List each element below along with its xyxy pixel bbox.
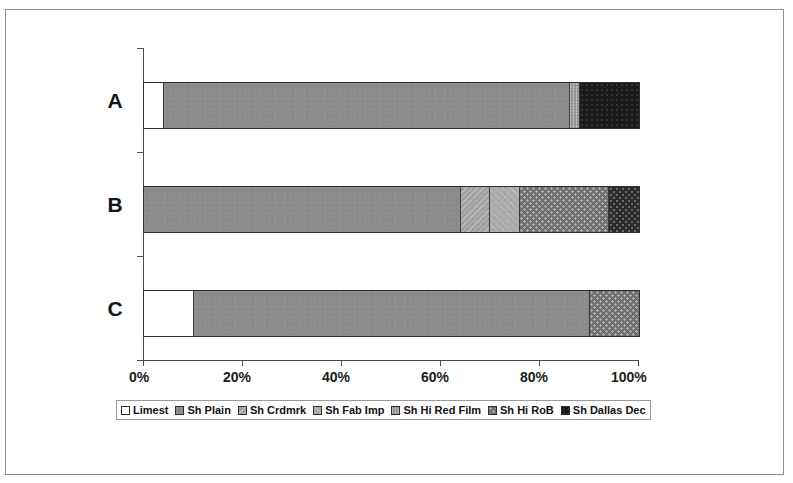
legend-entry[interactable]: Sh Hi Red Film [391,405,481,416]
chart-legend: LimestSh PlainSh CrdmrkSh Fab ImpSh Hi R… [116,400,651,420]
x-axis-tick [143,360,144,366]
bar-segment-fabimp [490,187,520,232]
legend-entry[interactable]: Sh Plain [175,405,230,416]
category-tick [137,256,143,257]
x-axis-tick [440,360,441,366]
bar-segment-redfilm [570,83,580,128]
legend-swatch-icon [175,406,184,415]
legend-entry[interactable]: Sh Fab Imp [313,405,384,416]
bar-segment-crdmrk [461,187,491,232]
legend-entry[interactable]: Sh Dallas Dec [561,405,646,416]
x-axis-tick [242,360,243,366]
bar-segment-dallas [609,187,639,232]
x-axis-tick [638,360,639,366]
legend-entry[interactable]: Sh Crdmrk [238,405,306,416]
bar-segment-plain [164,83,570,128]
bar-segment-rob [590,291,640,336]
category-tick [137,152,143,153]
bar-segment-plain [194,291,590,336]
x-axis-tick-label-0: 0% [129,369,149,385]
legend-label: Sh Hi Red Film [403,405,481,416]
x-axis-tick-label-40: 40% [322,369,350,385]
bar-row-a [143,82,640,129]
category-label-a: A [100,89,130,113]
bar-row-b [143,186,640,233]
bar-segment-limest [144,83,164,128]
x-axis-tick-label-20: 20% [223,369,251,385]
legend-label: Sh Plain [187,405,230,416]
legend-label: Sh Crdmrk [250,405,306,416]
bar-segment-plain [144,187,461,232]
legend-entry[interactable]: Sh Hi RoB [488,405,554,416]
bar-segment-limest [144,291,194,336]
value-axis-line [143,360,639,361]
legend-entry[interactable]: Limest [121,405,168,416]
x-axis-tick-label-100: 100% [611,369,647,385]
legend-swatch-icon [238,406,247,415]
category-label-b: B [100,193,130,217]
stacked-bar-chart: A B C 0% 20% 40% 60% 80% 100% LimestSh P… [0,0,793,483]
legend-swatch-icon [488,406,497,415]
legend-swatch-icon [313,406,322,415]
bar-segment-dallas [580,83,639,128]
legend-swatch-icon [121,406,130,415]
category-tick [137,48,143,49]
bar-row-c [143,290,640,337]
legend-swatch-icon [391,406,400,415]
x-axis-tick-label-80: 80% [520,369,548,385]
x-axis-tick [341,360,342,366]
legend-label: Sh Fab Imp [325,405,384,416]
legend-label: Sh Hi RoB [500,405,554,416]
x-axis-tick [539,360,540,366]
legend-label: Limest [133,405,168,416]
legend-swatch-icon [561,406,570,415]
bar-segment-rob [520,187,609,232]
legend-label: Sh Dallas Dec [573,405,646,416]
x-axis-tick-label-60: 60% [421,369,449,385]
category-label-c: C [100,297,130,321]
